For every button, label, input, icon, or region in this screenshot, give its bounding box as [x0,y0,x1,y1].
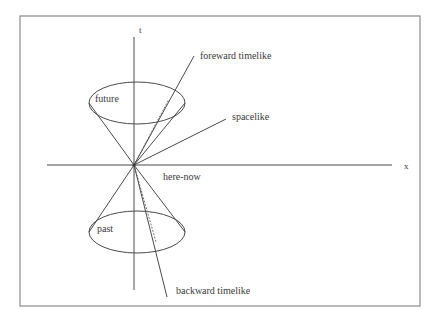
future-cone-label: future [95,94,119,104]
foreward-timelike-label: foreward timelike [200,51,271,61]
diagram-canvas [0,0,440,324]
spacelike-label: spacelike [232,112,269,122]
past-cone-label: past [97,224,113,234]
x-axis-label: x [404,162,409,171]
t-axis-label: t [139,26,142,35]
here-now-point [132,163,135,166]
backward-timelike-label: backward timelike [176,286,250,296]
here-now-label: here-now [163,172,201,182]
lightcone-figure: t x future past foreward timelike spacel… [0,0,440,324]
